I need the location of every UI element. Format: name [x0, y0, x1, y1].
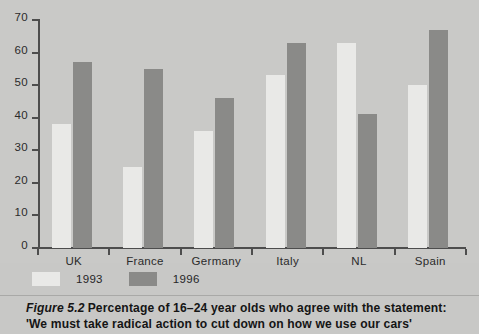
bar-italy-1993 [266, 75, 285, 248]
x-axis-label-nl: NL [323, 255, 394, 267]
bar-germany-1996 [215, 98, 234, 248]
y-tick-label-60: 60 [14, 44, 28, 56]
bar-uk-1996 [73, 62, 92, 248]
caption-line-2: 'We must take radical action to cut down… [26, 317, 466, 333]
y-tick-label-40: 40 [14, 109, 28, 121]
bar-france-1996 [144, 69, 163, 248]
caption-divider [0, 295, 479, 296]
y-tick-label-30: 30 [14, 141, 28, 153]
bar-nl-1993 [337, 43, 356, 248]
y-tick-label-20: 20 [14, 174, 28, 186]
y-tick-label-10: 10 [14, 206, 28, 218]
x-axis-label-france: France [109, 255, 180, 267]
caption-line-1: Percentage of 16–24 year olds who agree … [88, 301, 447, 315]
figure-caption: Figure 5.2Percentage of 16–24 year olds … [26, 301, 466, 332]
bar-germany-1993 [194, 131, 213, 248]
y-tick-label-0: 0 [21, 239, 28, 251]
legend-item-1996: 1996 [129, 272, 200, 286]
bar-italy-1996 [287, 43, 306, 248]
plot-area [38, 20, 466, 248]
bar-uk-1993 [52, 124, 71, 248]
figure-5-2: 010203040506070 UKFranceGermanyItalyNLSp… [0, 0, 479, 334]
x-axis-label-uk: UK [38, 255, 109, 267]
legend-label-1993: 1993 [76, 273, 103, 285]
y-tick-label-50: 50 [14, 76, 28, 88]
x-axis-label-italy: Italy [252, 255, 323, 267]
bar-chart: 010203040506070 UKFranceGermanyItalyNLSp… [0, 0, 479, 263]
y-tick-label-70: 70 [14, 11, 28, 23]
figure-number: Figure 5.2 [26, 301, 85, 315]
legend-swatch-1993 [32, 272, 60, 286]
x-axis-label-germany: Germany [181, 255, 252, 267]
legend-item-1993: 1993 [32, 272, 103, 286]
bar-spain-1996 [429, 30, 448, 248]
bar-nl-1996 [358, 114, 377, 248]
legend-swatch-1996 [129, 272, 157, 286]
legend-label-1996: 1996 [173, 273, 200, 285]
bar-spain-1993 [408, 85, 427, 248]
bar-france-1993 [123, 167, 142, 248]
chart-legend: 1993 1996 [32, 272, 226, 286]
x-axis-label-spain: Spain [395, 255, 466, 267]
